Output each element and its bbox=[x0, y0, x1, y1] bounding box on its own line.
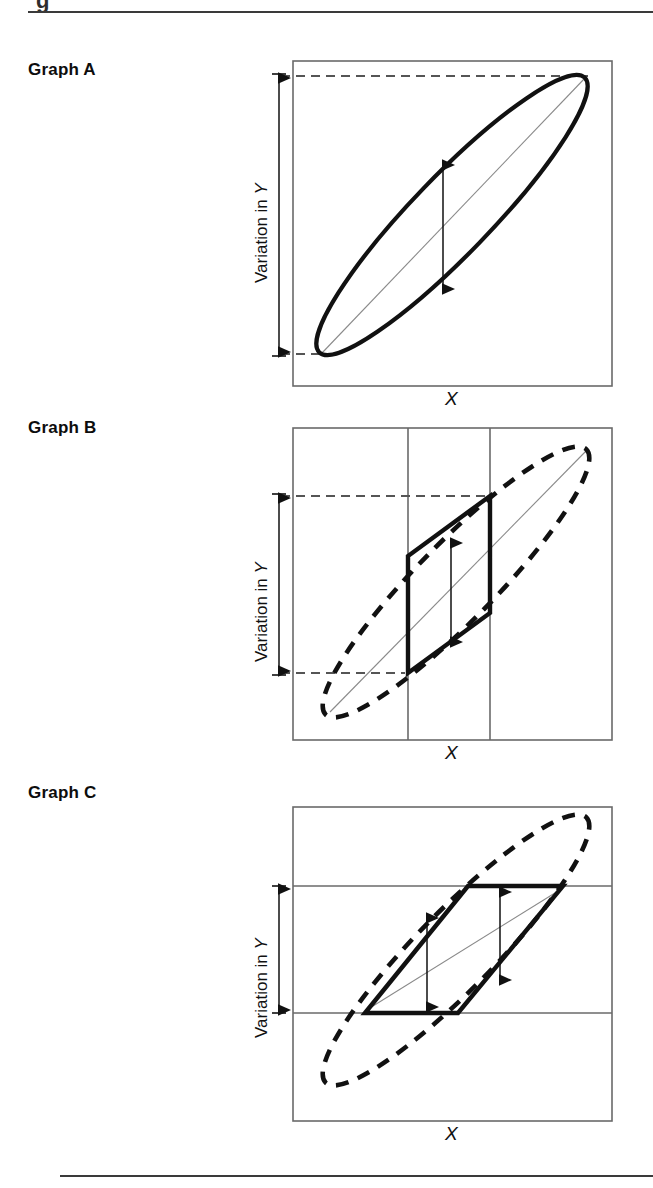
graph-a-y-axis-label-text: Variation in bbox=[252, 194, 271, 283]
graph-c-full-distribution-ellipse bbox=[298, 790, 614, 1110]
graph-a-regression-line bbox=[322, 78, 585, 353]
graph-b-y-axis-label-text: Variation in bbox=[252, 573, 271, 662]
page-bottom-rule bbox=[60, 1175, 653, 1177]
graph-panel-b: Graph B Variation in bbox=[0, 410, 653, 780]
graph-panel-c: Graph C Variation in bbox=[0, 775, 653, 1155]
graph-b-regression-line bbox=[330, 451, 586, 712]
graph-panel-a: Graph A Variation in Y bbox=[0, 45, 653, 420]
graph-a-range-bracket bbox=[272, 74, 286, 356]
graph-c-range-bracket bbox=[272, 886, 286, 1013]
graph-c-plot bbox=[0, 775, 653, 1155]
graph-b-range-bracket bbox=[272, 494, 286, 675]
graph-c-regression-line bbox=[365, 888, 563, 1011]
graph-c-x-axis-label: X bbox=[445, 1123, 458, 1145]
graph-b-y-axis-symbol: Y bbox=[252, 562, 271, 573]
graph-a-y-axis-symbol: Y bbox=[252, 183, 271, 194]
graph-b-plot bbox=[0, 410, 653, 780]
graph-a-plot bbox=[0, 45, 653, 420]
page-top-rule bbox=[28, 11, 653, 13]
graph-c-y-axis-label-text: Variation in bbox=[252, 949, 271, 1038]
graph-c-frame bbox=[293, 807, 612, 1121]
graph-b-y-axis-label: Variation in Y bbox=[252, 562, 272, 662]
graph-b-frame bbox=[293, 428, 612, 740]
graph-c-y-axis-label: Variation in Y bbox=[252, 938, 272, 1038]
graph-b-restricted-slice bbox=[408, 496, 490, 673]
graph-a-y-axis-label: Variation in Y bbox=[252, 183, 272, 283]
graph-a-x-axis-label: X bbox=[445, 388, 458, 410]
graph-a-frame bbox=[293, 61, 612, 386]
graph-b-x-axis-label: X bbox=[445, 742, 458, 764]
graph-c-y-axis-symbol: Y bbox=[252, 938, 271, 949]
